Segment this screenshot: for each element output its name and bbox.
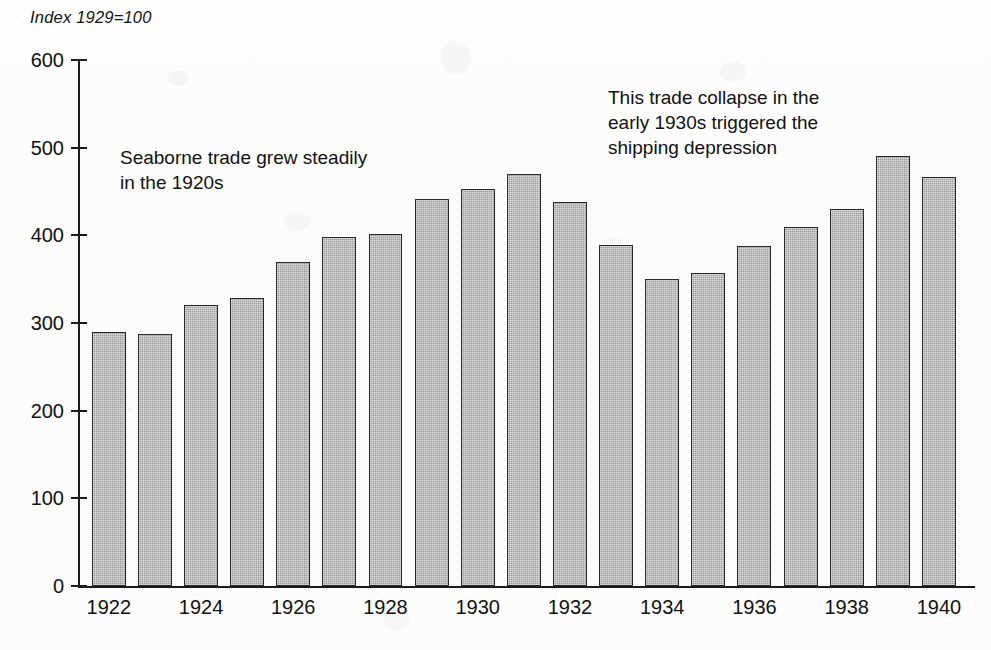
y-axis-tick-label: 300: [31, 312, 64, 335]
bar-chart: Index 1929=100 6005004003002001000 19221…: [0, 0, 991, 650]
x-axis-tick-label: 1934: [640, 596, 685, 619]
y-axis-tick-label: 0: [53, 575, 64, 598]
bar: [276, 262, 310, 586]
bar: [691, 273, 725, 586]
plot-area: 6005004003002001000 19221924192619281930…: [78, 60, 975, 586]
bar: [461, 189, 495, 586]
bar: [553, 202, 587, 586]
bar: [138, 334, 172, 586]
x-axis-tick-label: 1924: [179, 596, 224, 619]
bar-series: [78, 60, 975, 586]
x-axis-tick-label: 1932: [548, 596, 593, 619]
bar: [415, 199, 449, 586]
x-axis-tick-label: 1930: [455, 596, 500, 619]
bar: [507, 174, 541, 586]
x-axis-tick-label: 1938: [824, 596, 869, 619]
bar: [876, 156, 910, 586]
bar: [784, 227, 818, 586]
bar: [645, 279, 679, 586]
bar: [230, 298, 264, 586]
bar: [322, 237, 356, 586]
x-axis-tick-label: 1928: [363, 596, 408, 619]
y-axis-tick-label: 100: [31, 487, 64, 510]
bar: [737, 246, 771, 586]
x-axis-tick-label: 1922: [87, 596, 132, 619]
x-axis-line: [78, 586, 975, 588]
y-axis-tick-label: 600: [31, 49, 64, 72]
bar: [92, 332, 126, 586]
x-axis-tick-label: 1926: [271, 596, 316, 619]
bar: [184, 305, 218, 586]
annotation-trade-collapse-1930s: This trade collapse in the early 1930s t…: [608, 85, 819, 160]
y-axis-tick-label: 500: [31, 136, 64, 159]
chart-title: Index 1929=100: [30, 8, 152, 27]
x-axis-tick-label: 1936: [732, 596, 777, 619]
x-axis-tick-label: 1940: [917, 596, 962, 619]
y-axis-tick-label: 400: [31, 224, 64, 247]
bar: [599, 245, 633, 586]
y-axis-tick-label: 200: [31, 399, 64, 422]
bar: [830, 209, 864, 586]
annotation-seaborne-trade-1920s: Seaborne trade grew steadily in the 1920…: [120, 145, 367, 195]
bar: [922, 177, 956, 586]
bar: [369, 234, 403, 586]
